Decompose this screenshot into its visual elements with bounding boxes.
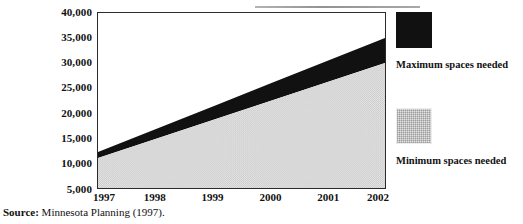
- y-tick-label: 30,000: [0, 57, 92, 68]
- x-axis: 199719981999200020012002: [97, 191, 386, 207]
- x-tick-label: 1999: [202, 191, 224, 203]
- plot-area: [97, 12, 386, 189]
- y-tick-label: 15,000: [0, 133, 92, 144]
- y-tick-label: 20,000: [0, 108, 92, 119]
- series-minimum-band: [98, 63, 385, 188]
- source-note: Source: Minnesota Planning (1997).: [3, 206, 165, 219]
- chart-plot-svg: [98, 13, 385, 188]
- source-text: Minnesota Planning (1997).: [39, 206, 165, 218]
- legend-label-maximum: Maximum spaces needed: [396, 59, 523, 71]
- y-axis: 40,00035,00030,00025,00020,00015,00010,0…: [0, 0, 92, 224]
- source-prefix: Source:: [3, 206, 39, 218]
- x-tick-label: 1998: [144, 191, 166, 203]
- x-tick-label: 2001: [317, 191, 339, 203]
- x-tick-label: 2000: [259, 191, 281, 203]
- y-tick-label: 40,000: [0, 7, 92, 18]
- y-tick-label: 10,000: [0, 158, 92, 169]
- plot-clip: [98, 13, 385, 188]
- legend-label-minimum: Minimum spaces needed: [396, 155, 523, 167]
- black-swatch-icon: [396, 12, 432, 48]
- x-tick-label: 2002: [367, 191, 389, 203]
- legend-entry-maximum: Maximum spaces needed: [396, 12, 523, 71]
- figure-area-chart: 40,00035,00030,00025,00020,00015,00010,0…: [0, 0, 523, 224]
- y-tick-label: 25,000: [0, 82, 92, 93]
- gray-swatch-icon: [396, 108, 432, 144]
- legend-entry-minimum: Minimum spaces needed: [396, 108, 523, 167]
- y-tick-label: 5,000: [0, 184, 92, 195]
- y-tick-label: 35,000: [0, 32, 92, 43]
- chart-legend: Maximum spaces needed Minimum spaces nee…: [396, 0, 523, 195]
- x-tick-label: 1997: [93, 191, 115, 203]
